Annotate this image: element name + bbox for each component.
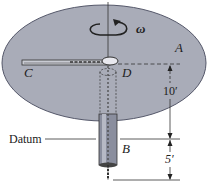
label-omega: ω xyxy=(136,21,145,36)
dim-5-label: 5′ xyxy=(165,152,174,166)
dim-10-label: 10′ xyxy=(163,84,178,98)
tube-highlight xyxy=(102,114,106,165)
groove-CD xyxy=(22,60,110,65)
label-C: C xyxy=(24,65,33,80)
dim-10-arrow-down-icon xyxy=(168,133,173,139)
dim-5-arrow-up-icon xyxy=(168,140,173,146)
label-B: B xyxy=(122,141,130,156)
label-A: A xyxy=(174,40,183,55)
diagram: ω A C D Datum B 10′ 5′ xyxy=(0,0,209,189)
label-datum: Datum xyxy=(9,132,42,146)
hole-D xyxy=(102,57,118,65)
label-D: D xyxy=(121,65,132,80)
dim-5-arrow-down-icon xyxy=(168,174,173,180)
